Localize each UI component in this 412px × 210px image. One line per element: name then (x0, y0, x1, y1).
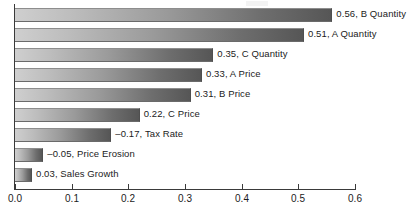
bar (15, 48, 213, 62)
bar-row: 0.35, C Quantity (0, 48, 412, 62)
bar-row: –0.17, Tax Rate (0, 128, 412, 142)
bar-row: 0.03, Sales Growth (0, 168, 412, 182)
plot-area: 0.56, B Quantity0.51, A Quantity0.35, C … (0, 0, 412, 190)
sensitivity-bar-chart: 0.56, B Quantity0.51, A Quantity0.35, C … (0, 0, 412, 210)
bar (15, 88, 191, 102)
x-axis-tick-label: 0.3 (178, 193, 192, 204)
bar (15, 68, 202, 82)
bar (15, 28, 304, 42)
bar-value-label: 0.31, B Price (195, 87, 251, 101)
bar-value-label: 0.03, Sales Growth (36, 167, 119, 181)
x-axis-tick-label: 0.0 (8, 193, 22, 204)
x-axis-tick-label: 0.6 (348, 193, 362, 204)
bar-value-label: –0.17, Tax Rate (115, 127, 183, 141)
x-axis-tick (355, 184, 356, 190)
y-axis-line (14, 4, 15, 190)
x-axis-tick (72, 184, 73, 190)
bar-value-label: 0.35, C Quantity (217, 47, 287, 61)
bar (15, 148, 43, 162)
bar-row: –0.05, Price Erosion (0, 148, 412, 162)
x-axis-tick-label: 0.2 (121, 193, 135, 204)
bar-row: 0.56, B Quantity (0, 8, 412, 22)
bar-value-label: 0.51, A Quantity (308, 27, 377, 41)
x-axis-tick-label: 0.5 (291, 193, 305, 204)
bar-value-label: 0.56, B Quantity (336, 7, 406, 21)
x-axis-tick (15, 184, 16, 190)
bar-row: 0.22, C Price (0, 108, 412, 122)
bar (15, 108, 140, 122)
bar (15, 8, 332, 22)
x-axis-tick-label: 0.4 (235, 193, 249, 204)
bar-value-label: 0.33, A Price (206, 67, 261, 81)
bar-row: 0.31, B Price (0, 88, 412, 102)
bar-value-label: –0.05, Price Erosion (47, 147, 135, 161)
bar (15, 168, 32, 182)
bar-row: 0.33, A Price (0, 68, 412, 82)
x-axis-tick (128, 184, 129, 190)
x-axis-tick (242, 184, 243, 190)
bar-value-label: 0.22, C Price (144, 107, 200, 121)
x-axis-tick (185, 184, 186, 190)
bar (15, 128, 111, 142)
x-axis-tick (298, 184, 299, 190)
x-axis-tick-label: 0.1 (65, 193, 79, 204)
bar-row: 0.51, A Quantity (0, 28, 412, 42)
